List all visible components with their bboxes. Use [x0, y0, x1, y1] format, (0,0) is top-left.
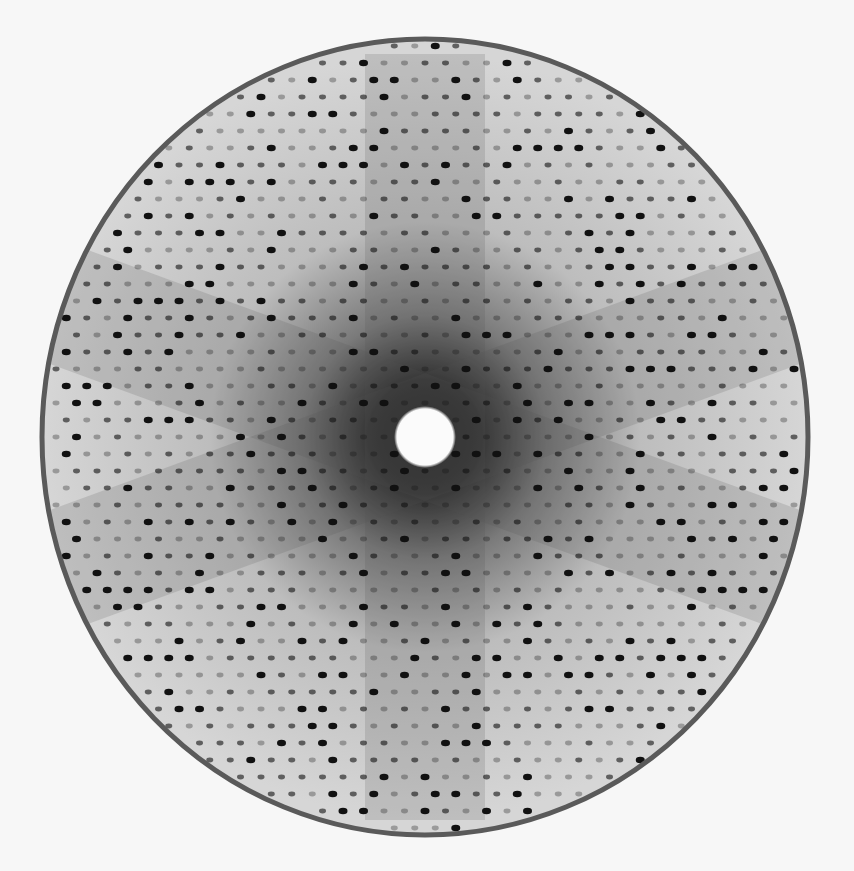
diffraction-image: X-ray diffraction pattern: [0, 0, 854, 871]
diffraction-pattern: [0, 0, 854, 871]
